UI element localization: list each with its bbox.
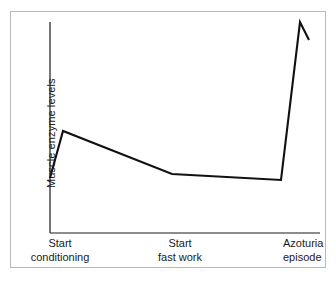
figure-container: Muscle enzyme levels Start conditioning … [0,0,336,284]
x-tick-label-start-fast-work: Start fast work [142,237,218,264]
x-tick-label-line1: Start [142,237,218,251]
x-tick-label-line2: fast work [142,251,218,265]
x-tick-label-line1: Azoturia [283,237,336,251]
x-tick-label-line2: conditioning [22,251,98,265]
data-line-muscle-enzyme-level [50,22,309,180]
x-tick-label-azoturia-episode: Azoturia episode [283,237,336,264]
x-tick-label-start-conditioning: Start conditioning [22,237,98,264]
y-axis-label: Muscle enzyme levels [45,8,57,188]
x-tick-label-line1: Start [22,237,98,251]
x-tick-label-line2: episode [283,251,336,265]
